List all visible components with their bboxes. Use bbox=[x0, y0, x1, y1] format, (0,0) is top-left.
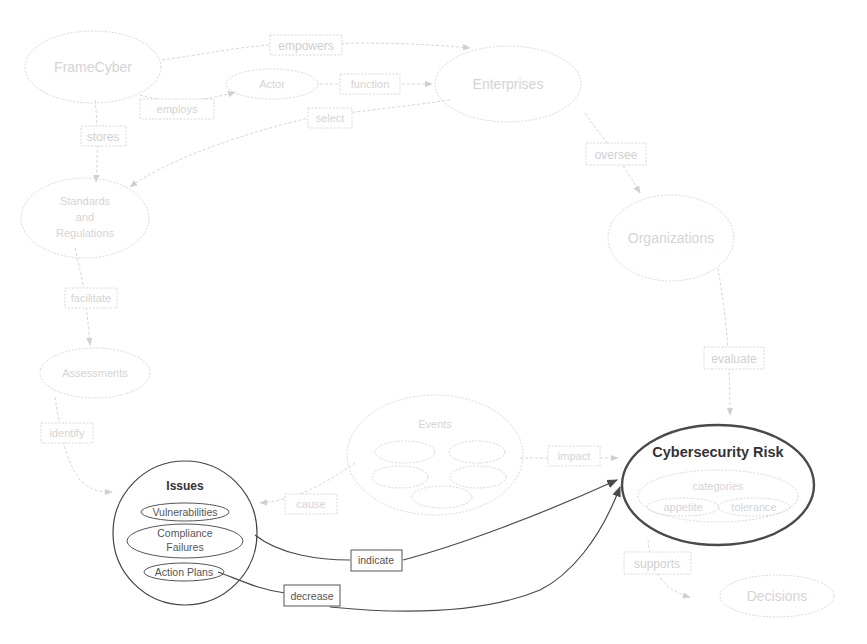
node-actor-label: Actor bbox=[259, 78, 285, 90]
svg-text:evaluate: evaluate bbox=[711, 352, 757, 366]
faded-edge-labels: empowers employs stores select oversee f… bbox=[41, 35, 764, 574]
svg-text:oversee: oversee bbox=[595, 148, 638, 162]
node-assessments[interactable]: Assessments bbox=[40, 348, 150, 398]
edge-label-events-issues: cause bbox=[285, 494, 337, 514]
svg-text:facilitate: facilitate bbox=[71, 292, 111, 304]
edge-label-employs: employs bbox=[140, 99, 214, 119]
event-subnode-1 bbox=[375, 441, 435, 463]
node-standards-label-1: Standards bbox=[60, 195, 111, 207]
node-standards-label-3: Regulations bbox=[56, 227, 115, 239]
edge-decrease-out bbox=[330, 487, 620, 611]
risk-categories[interactable]: categories appetite tolerance bbox=[638, 470, 798, 522]
edge-label-stores: stores bbox=[81, 126, 126, 146]
edge-evaluate bbox=[718, 268, 730, 415]
node-organizations-label: Organizations bbox=[628, 230, 714, 246]
issue-compliance-failures[interactable]: Compliance Failures bbox=[127, 524, 243, 558]
edge-label-events-risk: impact bbox=[548, 446, 600, 466]
node-issues-title: Issues bbox=[166, 479, 204, 493]
issue-vulnerabilities[interactable]: Vulnerabilities bbox=[141, 503, 229, 521]
node-standards-label-2: and bbox=[76, 211, 94, 223]
svg-text:tolerance: tolerance bbox=[731, 501, 776, 513]
edge-label-facilitate: facilitate bbox=[65, 288, 117, 308]
svg-text:decrease: decrease bbox=[290, 590, 333, 602]
edge-decrease-in bbox=[218, 572, 285, 593]
node-actor[interactable]: Actor bbox=[226, 69, 318, 99]
svg-text:cause: cause bbox=[296, 498, 325, 510]
node-function[interactable]: function bbox=[340, 74, 400, 94]
node-cybersecurity-risk[interactable]: Cybersecurity Risk categories appetite t… bbox=[622, 425, 814, 545]
node-standards[interactable]: Standards and Regulations bbox=[21, 178, 149, 258]
node-framecyber[interactable]: FrameCyber bbox=[25, 31, 161, 103]
node-issues[interactable]: Issues Vulnerabilities Compliance Failur… bbox=[113, 461, 257, 605]
svg-text:appetite: appetite bbox=[663, 501, 702, 513]
svg-text:identify: identify bbox=[50, 427, 85, 439]
node-events[interactable]: Events bbox=[347, 395, 523, 515]
node-organizations[interactable]: Organizations bbox=[608, 195, 734, 281]
svg-text:indicate: indicate bbox=[358, 554, 394, 566]
svg-text:stores: stores bbox=[87, 130, 120, 144]
event-subnode-3 bbox=[372, 466, 428, 488]
event-subnode-2 bbox=[449, 441, 505, 463]
svg-text:employs: employs bbox=[157, 103, 198, 115]
edge-label-empowers: empowers bbox=[270, 35, 342, 55]
event-subnode-4 bbox=[450, 466, 506, 488]
node-function-label: function bbox=[351, 78, 390, 90]
issue-action-plans[interactable]: Action Plans bbox=[144, 563, 224, 581]
node-enterprises-label: Enterprises bbox=[473, 76, 544, 92]
edge-label-decrease: decrease bbox=[284, 585, 340, 606]
svg-text:Compliance: Compliance bbox=[157, 527, 213, 539]
svg-text:Vulnerabilities: Vulnerabilities bbox=[153, 506, 218, 518]
edge-label-select: select bbox=[308, 108, 352, 128]
svg-text:empowers: empowers bbox=[278, 39, 333, 53]
node-framecyber-label: FrameCyber bbox=[54, 59, 132, 75]
svg-text:Failures: Failures bbox=[166, 541, 203, 553]
svg-text:supports: supports bbox=[634, 557, 680, 571]
svg-text:Action Plans: Action Plans bbox=[155, 566, 213, 578]
node-events-label: Events bbox=[418, 418, 452, 430]
svg-text:impact: impact bbox=[558, 450, 590, 462]
node-decisions[interactable]: Decisions bbox=[720, 575, 834, 617]
edge-label-supports: supports bbox=[624, 552, 691, 574]
edge-label-evaluate: evaluate bbox=[704, 347, 764, 369]
risk-categories-label: categories bbox=[693, 480, 744, 492]
svg-text:select: select bbox=[316, 112, 345, 124]
node-cyber-risk-title: Cybersecurity Risk bbox=[652, 444, 784, 460]
node-decisions-label: Decisions bbox=[747, 588, 808, 604]
edge-label-indicate: indicate bbox=[351, 550, 402, 571]
concept-map: FrameCyber Actor function Enterprises St… bbox=[0, 0, 867, 644]
edge-label-identify: identify bbox=[41, 423, 93, 443]
edge-label-oversee: oversee bbox=[586, 143, 646, 165]
node-assessments-label: Assessments bbox=[62, 367, 128, 379]
node-enterprises[interactable]: Enterprises bbox=[435, 46, 581, 122]
event-subnode-5 bbox=[412, 486, 472, 508]
edge-indicate-out bbox=[403, 480, 617, 560]
edge-identify bbox=[55, 397, 112, 492]
active-edges bbox=[218, 480, 620, 611]
edge-indicate-in bbox=[255, 535, 350, 560]
